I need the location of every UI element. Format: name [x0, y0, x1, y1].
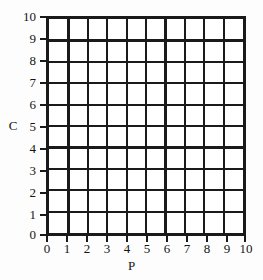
coordinate-grid-chart: 0 1 2 3 4 5 6 7 8 9 10 10 9 8 7 6 5 4 3 … [0, 0, 263, 280]
x-tick-label: 10 [233, 241, 259, 256]
y-tick-mark [40, 104, 46, 106]
y-tick-label: 0 [12, 227, 36, 242]
y-tick-mark [40, 234, 46, 236]
plot-area [46, 16, 246, 236]
y-tick-mark [40, 170, 46, 172]
y-tick-label: 2 [12, 185, 36, 200]
y-tick-label: 10 [12, 9, 36, 24]
y-tick-label: 8 [12, 53, 36, 68]
x-axis-title: P [0, 258, 263, 273]
y-tick-label: 1 [12, 207, 36, 222]
y-tick-label: 9 [12, 31, 36, 46]
y-tick-mark [40, 148, 46, 150]
y-tick-mark [40, 192, 46, 194]
y-tick-mark [40, 38, 46, 40]
y-tick-label: 3 [12, 163, 36, 178]
y-axis-title: C [6, 118, 20, 133]
y-tick-mark [40, 82, 46, 84]
y-tick-label: 4 [12, 141, 36, 156]
grid-lines [49, 19, 243, 233]
y-tick-mark [40, 16, 46, 18]
y-tick-label: 6 [12, 97, 36, 112]
y-tick-mark [40, 214, 46, 216]
y-tick-label: 7 [12, 75, 36, 90]
y-tick-mark [40, 126, 46, 128]
y-tick-mark [40, 60, 46, 62]
